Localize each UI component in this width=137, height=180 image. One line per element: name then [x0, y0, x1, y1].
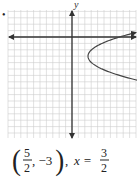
parabola-graph: y — [0, 0, 137, 142]
comma: , — [65, 153, 68, 168]
fraction1-numerator: 5 — [24, 146, 30, 160]
fraction1-denominator: 2 — [24, 161, 30, 175]
open-paren: ( — [12, 144, 21, 177]
y-coordinate: , −3 — [32, 153, 52, 168]
fraction2-numerator: 3 — [101, 146, 107, 160]
answer-expression: ( 5 2 , −3 ) , x = 3 2 — [12, 144, 137, 178]
y-axis-label: y — [73, 0, 79, 10]
fraction2-denominator: 2 — [101, 161, 107, 175]
answer-text: ( 5 2 , −3 ) , x = 3 2 — [12, 144, 137, 178]
axis-equation: x = — [73, 153, 92, 168]
parabola-upper-branch — [88, 33, 136, 57]
close-paren: ) — [55, 144, 64, 177]
